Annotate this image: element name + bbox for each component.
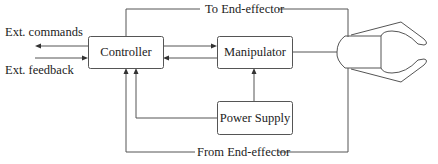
from-end-effector-label: From End-effector bbox=[197, 145, 291, 159]
ext-commands-arrow bbox=[35, 44, 88, 49]
ext-feedback-arrow bbox=[35, 56, 88, 61]
manipulator-block: Manipulator bbox=[218, 37, 293, 69]
power-supply-block: Power Supply bbox=[218, 102, 293, 135]
gripper-icon bbox=[337, 22, 427, 82]
to-end-effector-label: To End-effector bbox=[205, 2, 285, 16]
power-to-controller-arrow bbox=[134, 68, 218, 118]
block-diagram: To End-effector From End-effector Ext. c… bbox=[0, 0, 438, 164]
ext-commands-label: Ext. commands bbox=[5, 25, 83, 39]
controller-block: Controller bbox=[89, 37, 164, 69]
controller-label: Controller bbox=[100, 45, 152, 59]
manipulator-to-controller-arrow bbox=[163, 56, 217, 61]
ext-feedback-label: Ext. feedback bbox=[5, 63, 74, 77]
controller-to-manipulator-arrow bbox=[163, 44, 217, 49]
power-supply-label: Power Supply bbox=[220, 111, 291, 125]
manipulator-label: Manipulator bbox=[224, 45, 287, 59]
power-to-manipulator-arrow bbox=[252, 68, 257, 102]
